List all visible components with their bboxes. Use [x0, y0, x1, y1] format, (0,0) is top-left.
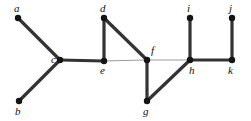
graph-vertex-b: [16, 98, 22, 104]
graph-vertex-g: [144, 98, 150, 104]
graph-edge-d-f: [104, 18, 147, 60]
graph-vertex-f: [144, 57, 150, 63]
vertex-label-g: g: [143, 106, 149, 117]
vertex-label-e: e: [100, 65, 105, 76]
graph-vertex-h: [187, 57, 193, 63]
vertex-label-a: a: [14, 3, 20, 14]
graph-vertex-k: [229, 57, 235, 63]
graph-vertex-i: [187, 15, 193, 21]
graph-edge-e-f: [104, 60, 147, 61]
graph-edge-b-c: [19, 60, 60, 101]
vertex-label-j: j: [229, 3, 232, 14]
graph-canvas: [0, 0, 251, 121]
vertex-label-f: f: [151, 45, 154, 56]
vertex-label-k: k: [228, 65, 233, 76]
graph-vertex-c: [57, 57, 63, 63]
graph-vertex-d: [101, 15, 107, 21]
graph-edge-c-e: [60, 60, 104, 61]
graph-vertex-j: [229, 15, 235, 21]
graph-figure: abcdefghijk: [0, 0, 251, 121]
vertex-label-h: h: [189, 65, 195, 76]
vertex-label-d: d: [100, 3, 106, 14]
vertex-label-b: b: [15, 106, 21, 117]
vertex-label-i: i: [187, 3, 190, 14]
graph-vertex-a: [15, 15, 21, 21]
graph-edge-g-h: [147, 60, 190, 101]
vertex-label-c: c: [51, 54, 56, 65]
